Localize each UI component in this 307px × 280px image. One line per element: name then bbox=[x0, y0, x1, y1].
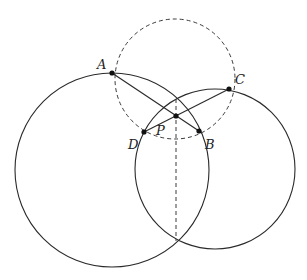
geometry-diagram: ACDBP bbox=[0, 0, 307, 280]
label-P: P bbox=[155, 123, 165, 138]
label-C: C bbox=[235, 72, 245, 87]
labels-group: ACDBP bbox=[96, 57, 245, 152]
point-B bbox=[196, 128, 201, 133]
left-circle bbox=[15, 73, 209, 267]
label-D: D bbox=[127, 137, 139, 152]
point-C bbox=[226, 86, 231, 91]
circles-group bbox=[15, 19, 295, 267]
point-A bbox=[109, 70, 114, 75]
point-D bbox=[141, 129, 146, 134]
label-B: B bbox=[204, 137, 215, 152]
label-A: A bbox=[96, 57, 106, 72]
point-P bbox=[173, 113, 178, 118]
segments-group bbox=[112, 73, 229, 241]
dashed-circle bbox=[115, 19, 235, 139]
right-circle bbox=[135, 89, 295, 249]
